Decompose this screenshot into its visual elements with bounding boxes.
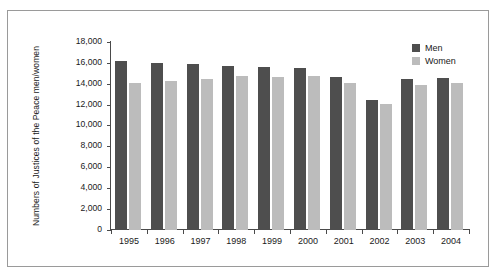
x-axis-tick-label-2003: 2003	[395, 236, 435, 246]
y-axis-tick-label: 12,000	[76, 99, 102, 109]
legend-label-men: Men	[425, 43, 443, 53]
bar-men-1997	[187, 64, 199, 230]
x-axis-tick-label-1996: 1996	[145, 236, 185, 246]
legend-item-women[interactable]: Women	[412, 54, 482, 67]
bar-group	[111, 42, 147, 230]
bar-men-2004	[437, 78, 449, 230]
bar-men-1999	[258, 67, 270, 230]
x-axis-tick-mark	[433, 229, 434, 234]
bar-women-1999	[272, 77, 284, 230]
x-axis-tick-label-2000: 2000	[288, 236, 328, 246]
x-axis-tick-mark	[397, 229, 398, 234]
x-axis-tick-mark	[218, 229, 219, 234]
x-axis-tick-label-1995: 1995	[109, 236, 149, 246]
bar-group	[326, 42, 362, 230]
x-axis-tick-mark	[290, 229, 291, 234]
y-axis-tick-label: 0	[97, 224, 102, 234]
legend-item-men[interactable]: Men	[412, 41, 482, 54]
bar-group	[254, 42, 290, 230]
bar-group	[147, 42, 183, 230]
bar-women-1997	[201, 79, 213, 230]
x-axis-tick-mark	[183, 229, 184, 234]
chart-figure: Numbers of Justices of the Peace men/wom…	[0, 0, 497, 277]
legend-swatch-men-icon	[412, 44, 420, 52]
x-axis-tick-mark	[147, 229, 148, 234]
y-axis-tick-label: 16,000	[76, 57, 102, 67]
x-axis-tick-mark	[326, 229, 327, 234]
y-axis-tick-label: 10,000	[76, 119, 102, 129]
y-axis-title: Numbers of Justices of the Peace men/wom…	[31, 36, 41, 236]
x-axis-tick-label-2004: 2004	[431, 236, 471, 246]
bar-men-2000	[294, 68, 306, 231]
bar-women-2003	[415, 85, 427, 230]
bar-group	[290, 42, 326, 230]
bar-women-1995	[129, 83, 141, 230]
bar-women-2001	[344, 83, 356, 230]
bar-women-1998	[236, 76, 248, 230]
chart-frame: Numbers of Justices of the Peace men/wom…	[7, 10, 489, 267]
x-axis-tick-label-2001: 2001	[324, 236, 364, 246]
bar-group	[433, 42, 469, 230]
x-axis-tick-mark	[362, 229, 363, 234]
x-axis-tick-label-1998: 1998	[216, 236, 256, 246]
y-axis-tick-label: 8,000	[80, 140, 102, 150]
y-axis-tick-label: 2,000	[80, 203, 102, 213]
x-axis-tick-mark	[254, 229, 255, 234]
bar-women-2004	[451, 83, 463, 230]
bar-women-2002	[380, 104, 392, 230]
bar-group	[183, 42, 219, 230]
bar-men-2003	[401, 79, 413, 230]
chart-legend: MenWomen	[412, 41, 482, 67]
bar-group	[397, 42, 433, 230]
bar-group	[362, 42, 398, 230]
y-axis-tick-label: 18,000	[76, 36, 102, 46]
y-axis-tick-label: 14,000	[76, 78, 102, 88]
bar-men-1998	[222, 66, 234, 230]
bars-area	[111, 42, 469, 230]
x-axis-tick-label-1997: 1997	[181, 236, 221, 246]
y-axis-tick-label: 6,000	[80, 161, 102, 171]
bar-women-1996	[165, 81, 177, 230]
bar-men-2001	[330, 77, 342, 230]
x-axis-tick-mark	[469, 229, 470, 234]
x-axis-tick-label-2002: 2002	[360, 236, 400, 246]
x-axis-tick-label-1999: 1999	[252, 236, 292, 246]
x-axis-tick-mark	[111, 229, 112, 234]
legend-swatch-women-icon	[412, 57, 420, 65]
bar-men-1995	[115, 61, 127, 230]
y-axis-tick-label: 4,000	[80, 182, 102, 192]
legend-label-women: Women	[425, 56, 456, 66]
bar-women-2000	[308, 76, 320, 230]
bar-men-1996	[151, 63, 163, 230]
bar-men-2002	[366, 100, 378, 230]
bar-group	[218, 42, 254, 230]
